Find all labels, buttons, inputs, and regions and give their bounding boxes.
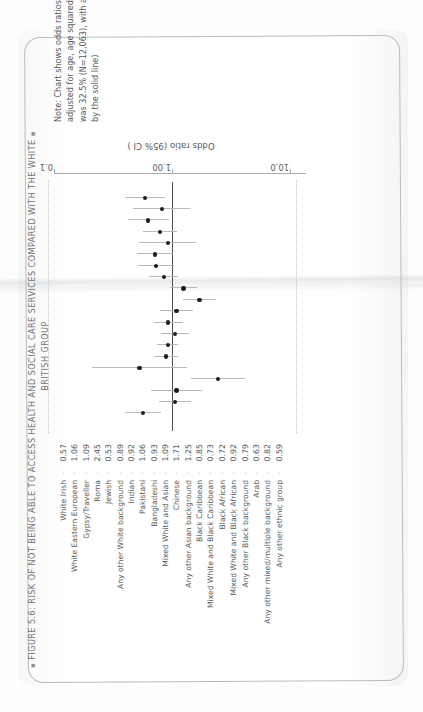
odds-ratio-value: 1.09 (160, 444, 171, 470)
leader-dot: · (148, 469, 159, 477)
category-label: Pakistani (137, 480, 148, 676)
leader-dot: · (137, 469, 148, 477)
category-label: Any other White background (114, 480, 125, 676)
reference-line-or-1 (172, 182, 173, 431)
odds-ratio-value: 0.63 (250, 444, 261, 470)
axis-tick (172, 169, 173, 174)
odds-ratio-point (142, 196, 146, 200)
leader-dot: · (205, 469, 216, 477)
odds-ratio-point (172, 400, 176, 404)
dotted-rule-bottom (296, 180, 297, 433)
category-label: Indian (126, 480, 137, 676)
odds-ratio-point (159, 207, 163, 211)
leader-dot: · (228, 469, 239, 477)
odds-ratio-value: 0.93 (148, 444, 159, 470)
leader-dot: · (250, 469, 261, 477)
odds-ratio-point (174, 309, 178, 313)
odds-ratio-value: 0.73 (205, 444, 216, 470)
category-label: Any other Black background (239, 480, 250, 676)
odds-ratio-point (165, 241, 169, 245)
leader-dot: · (126, 469, 137, 477)
leader-dot: · (69, 469, 80, 477)
odds-ratio-point (141, 411, 145, 415)
figure-note: Note: Chart shows odds ratios with 95% c… (52, 0, 102, 122)
odds-ratio-value: 0.92 (228, 444, 239, 470)
category-label: Mixed White and Black African (228, 480, 239, 676)
figure-rotated-container: ▪ FIGURE 5.6: RISK OF NOT BEING ABLE TO … (22, 36, 402, 676)
x-axis-title: Odds ratio (95% CI ) (116, 141, 226, 151)
leader-dot: · (171, 469, 182, 477)
odds-ratio-value: 1.25 (182, 444, 193, 470)
leader-dot: · (273, 469, 284, 477)
odds-ratio-value: 0.82 (262, 444, 273, 470)
category-label: Any other Asian background (182, 480, 193, 676)
axis-tick (54, 169, 55, 174)
leader-dot: · (114, 469, 125, 477)
odds-ratio-point (157, 230, 161, 234)
leader-dot: · (58, 469, 69, 477)
odds-ratio-point (137, 366, 141, 370)
axis-tick-label: 0.1 (19, 162, 53, 172)
category-label: Mixed White and Asian (160, 480, 171, 676)
leader-dot: · (182, 469, 193, 477)
category-label: Jewish (103, 480, 114, 676)
odds-ratio-value: 1.06 (137, 444, 148, 470)
odds-ratio-point (153, 252, 157, 256)
category-label: White Eastern European (69, 480, 80, 676)
category-label: Mixed White and Black Caribbean (205, 480, 216, 676)
category-label: Black Caribbean (194, 480, 205, 676)
odds-ratio-value: 2.45 (92, 444, 103, 470)
odds-ratio-point (174, 388, 178, 392)
odds-ratio-point (166, 320, 170, 324)
leader-dot: · (216, 469, 227, 477)
odds-ratio-point (163, 354, 167, 358)
leader-dot: · (160, 469, 171, 477)
axis-tick-label: 10.0 (255, 162, 289, 172)
odds-ratio-point (153, 264, 157, 268)
odds-ratio-value: 0.53 (103, 444, 114, 470)
odds-ratio-point (215, 377, 219, 381)
category-label: White Irish (58, 480, 69, 676)
odds-ratio-point (172, 332, 176, 336)
odds-ratio-value: 0.57 (58, 444, 69, 470)
category-label: Chinese (171, 480, 182, 676)
leader-dot: · (194, 469, 205, 477)
scanned-page: ▪ FIGURE 5.6: RISK OF NOT BEING ABLE TO … (0, 0, 423, 712)
odds-ratio-value: 1.71 (171, 444, 182, 470)
category-label: Bangladeshi (148, 480, 159, 676)
odds-ratio-value: 1.06 (69, 444, 80, 470)
odds-ratio-point (181, 286, 185, 290)
leader-dot: · (103, 469, 114, 477)
leader-dot: · (239, 469, 250, 477)
odds-ratio-value: 0.85 (194, 444, 205, 470)
odds-ratio-value: 0.89 (114, 444, 125, 470)
category-label: Gypsy/Traveller (80, 480, 91, 676)
odds-ratio-value: 1.09 (80, 444, 91, 470)
odds-ratio-value: 0.79 (239, 444, 250, 470)
category-label: Any other ethnic group (273, 480, 284, 676)
odds-ratio-point (165, 343, 169, 347)
leader-dot: · (262, 469, 273, 477)
axis-tick-label: 1.00 (137, 162, 171, 172)
x-axis-line (54, 173, 306, 174)
forest-plot: White Irish·0.57White Eastern European·1… (22, 36, 402, 676)
axis-tick (290, 169, 291, 174)
odds-ratio-point (146, 218, 150, 222)
dotted-rule-top (48, 180, 49, 433)
odds-ratio-point (161, 275, 165, 279)
category-label: Any other mixed/multiple background (262, 480, 273, 676)
odds-ratio-value: 0.72 (216, 444, 227, 470)
leader-dot: · (92, 469, 103, 477)
category-label: Arab (250, 480, 261, 676)
odds-ratio-point (197, 298, 201, 302)
category-label: Roma (92, 480, 103, 676)
odds-ratio-value: 0.92 (126, 444, 137, 470)
leader-dot: · (80, 469, 91, 477)
odds-ratio-value: 0.59 (273, 444, 284, 470)
category-label: Black African (216, 480, 227, 676)
